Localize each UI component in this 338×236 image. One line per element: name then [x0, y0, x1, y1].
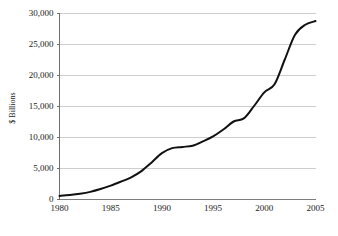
y-axis-tick-label: 20,000: [29, 70, 54, 80]
x-axis-tick-label: 1980: [51, 203, 70, 213]
y-axis-title: $ Billions: [8, 92, 17, 123]
x-axis-tick-labels: 198019851990199520002005: [51, 203, 326, 213]
y-axis-tick-labels: 05,00010,00015,00020,00025,00030,000: [29, 8, 54, 204]
gridlines: [60, 14, 317, 169]
chart-canvas: 05,00010,00015,00020,00025,00030,000 198…: [0, 0, 338, 236]
y-axis-tick-label: 30,000: [29, 8, 54, 18]
x-axis-tick-label: 1985: [102, 203, 121, 213]
x-axis-tick-label: 1990: [153, 203, 172, 213]
y-axis-tick-label: 10,000: [29, 132, 54, 142]
line-chart-figure: 05,00010,00015,00020,00025,00030,000 198…: [0, 0, 338, 236]
data-series-line: [60, 21, 316, 196]
y-axis-tick-label: 5,000: [33, 163, 54, 173]
x-axis-tick-label: 2000: [255, 203, 274, 213]
x-axis-tick-label: 2005: [307, 203, 326, 213]
y-axis-tick-label: 15,000: [29, 101, 54, 111]
x-axis-tick-label: 1995: [204, 203, 223, 213]
y-axis-tick-label: 25,000: [29, 39, 54, 49]
